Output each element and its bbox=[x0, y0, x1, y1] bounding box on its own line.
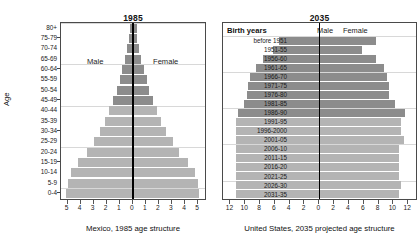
bar-female bbox=[133, 44, 140, 53]
x-axis-tick-label: 6 bbox=[272, 204, 276, 211]
x-axis-tick bbox=[158, 200, 159, 204]
birth-year-label: 2026-30 bbox=[223, 182, 287, 189]
bar-female bbox=[319, 37, 375, 45]
x-axis-tick bbox=[318, 200, 319, 204]
birth-year-label: 2011-15 bbox=[223, 154, 287, 161]
bar-female bbox=[133, 158, 188, 167]
x-axis-tick bbox=[132, 200, 133, 204]
bar-female bbox=[319, 73, 387, 81]
birth-year-label: 1981-85 bbox=[223, 100, 287, 107]
bar-male bbox=[66, 189, 133, 198]
bar-male bbox=[100, 127, 133, 136]
x-axis-tick-label: 2 bbox=[104, 204, 108, 211]
birth-year-label: before 1951 bbox=[223, 37, 287, 44]
bar-female bbox=[319, 181, 400, 189]
birth-year-label: 1951-55 bbox=[223, 46, 287, 53]
age-group-label: 35-39 bbox=[3, 117, 57, 124]
x-axis-tick bbox=[145, 200, 146, 204]
birth-year-label: 2016-20 bbox=[223, 163, 287, 170]
x-axis-tick bbox=[93, 200, 94, 204]
x-axis-tick bbox=[289, 200, 290, 204]
bar-female bbox=[133, 117, 161, 126]
age-group-label: 0-4 bbox=[3, 189, 57, 196]
age-group-label: 80+ bbox=[3, 24, 57, 31]
x-axis-tick-label: 4 bbox=[287, 204, 291, 211]
bar-female bbox=[319, 163, 399, 171]
age-group-label: 30-34 bbox=[3, 127, 57, 134]
x-axis-tick-label: 5 bbox=[195, 204, 199, 211]
x-axis-tick bbox=[378, 200, 379, 204]
birth-year-label: 1956-60 bbox=[223, 55, 287, 62]
age-group-label: 25-29 bbox=[3, 137, 57, 144]
x-axis-tick-label: 2 bbox=[302, 204, 306, 211]
bar-male bbox=[78, 158, 133, 167]
x-axis-tick-label: 1 bbox=[143, 204, 147, 211]
age-group-label: 50-54 bbox=[3, 86, 57, 93]
x-axis-tick bbox=[407, 200, 408, 204]
bar-female bbox=[319, 118, 400, 126]
x-axis-tick-label: 4 bbox=[78, 204, 82, 211]
x-axis-tick-label: 2 bbox=[331, 204, 335, 211]
birth-year-label: 1991-95 bbox=[223, 118, 287, 125]
bar-male bbox=[117, 86, 133, 95]
x-axis-tick bbox=[392, 200, 393, 204]
bar-female bbox=[133, 127, 166, 136]
bar-female bbox=[133, 148, 179, 157]
birth-years-heading: Birth years bbox=[227, 26, 267, 35]
x-axis-tick-label: 3 bbox=[91, 204, 95, 211]
age-group-label: 60-64 bbox=[3, 65, 57, 72]
x-axis-tick bbox=[119, 200, 120, 204]
bar-female bbox=[319, 109, 405, 117]
zero-axis-line bbox=[132, 23, 134, 199]
male-legend-label-2035: Male bbox=[317, 26, 333, 35]
x-axis-tick bbox=[303, 200, 304, 204]
x-axis-tick-label: 3 bbox=[169, 204, 173, 211]
female-legend-label-2035: Female bbox=[343, 26, 368, 35]
x-axis-tick bbox=[106, 200, 107, 204]
age-group-label: 15-19 bbox=[3, 158, 57, 165]
bar-female bbox=[133, 65, 144, 74]
birth-year-label: 2006-10 bbox=[223, 145, 287, 152]
x-axis-tick bbox=[333, 200, 334, 204]
bar-female bbox=[319, 154, 399, 162]
zero-axis-line bbox=[319, 23, 321, 199]
bar-female bbox=[319, 91, 389, 99]
birth-year-label: 2021-25 bbox=[223, 173, 287, 180]
bar-female bbox=[133, 55, 141, 64]
x-axis-1985: 54321012345 bbox=[60, 200, 206, 216]
plot-area-1985 bbox=[61, 23, 205, 199]
bar-male bbox=[87, 148, 133, 157]
x-axis-tick bbox=[171, 200, 172, 204]
age-group-label: 65-69 bbox=[3, 55, 57, 62]
age-group-label: 70-74 bbox=[3, 44, 57, 51]
bar-female bbox=[133, 137, 173, 146]
x-axis-tick-label: 2 bbox=[156, 204, 160, 211]
x-axis-tick-label: 10 bbox=[241, 204, 248, 211]
x-axis-tick bbox=[244, 200, 245, 204]
bar-female bbox=[319, 145, 399, 153]
x-axis-tick-label: 6 bbox=[361, 204, 365, 211]
x-axis-tick bbox=[67, 200, 68, 204]
birth-year-label: 1971-75 bbox=[223, 82, 287, 89]
x-axis-tick-label: 5 bbox=[65, 204, 69, 211]
x-axis-tick-label: 4 bbox=[346, 204, 350, 211]
caption-2035: United States, 2035 projected age struct… bbox=[212, 224, 419, 233]
bar-female bbox=[133, 96, 153, 105]
bar-female bbox=[319, 55, 375, 63]
bar-male bbox=[94, 137, 133, 146]
x-axis-tick-label: 0 bbox=[130, 204, 134, 211]
x-axis-tick bbox=[184, 200, 185, 204]
x-axis-tick-label: 12 bbox=[226, 204, 233, 211]
x-axis-2035: 12108642024681012 bbox=[222, 200, 417, 216]
age-group-label: 5-9 bbox=[3, 179, 57, 186]
age-group-label: 55-59 bbox=[3, 75, 57, 82]
bar-male bbox=[68, 179, 133, 188]
x-axis-tick-label: 10 bbox=[389, 204, 396, 211]
bar-male bbox=[113, 96, 133, 105]
x-axis-tick-label: 1 bbox=[117, 204, 121, 211]
bar-female bbox=[133, 106, 157, 115]
x-axis-tick bbox=[259, 200, 260, 204]
bar-female bbox=[319, 82, 389, 90]
age-label-column: 80+75-7970-7465-6960-6455-5950-5445-4940… bbox=[0, 22, 57, 200]
bar-male bbox=[71, 168, 132, 177]
